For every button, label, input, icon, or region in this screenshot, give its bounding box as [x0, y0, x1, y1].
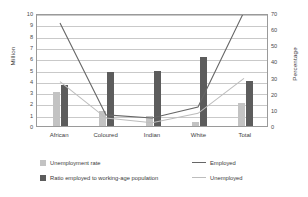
legend-item-employed: Employed	[192, 155, 243, 170]
y-tick-label-right: 20	[271, 92, 277, 98]
y-axis-ticks-right: 010203040506070	[271, 14, 289, 127]
legend-column-bars: Unemployment rate Ratio employed to work…	[40, 155, 158, 185]
y-tick-label-right: 70	[271, 11, 277, 17]
x-tick-label: Total	[238, 132, 251, 138]
y-axis-label-right: Percentage	[291, 47, 298, 81]
x-tick-label: Indian	[144, 132, 160, 138]
y-tick-label-left: 4	[30, 79, 33, 85]
y-tick-label-left: 3	[30, 90, 33, 96]
chart-container: Million Percentage 012345678910 01020304…	[0, 0, 308, 197]
gridline	[37, 60, 267, 61]
bar-unemployment-rate	[146, 116, 153, 126]
y-tick-label-left: 8	[30, 34, 33, 40]
y-tick-label-left: 6	[30, 56, 33, 62]
gridline	[37, 38, 267, 39]
y-tick-label-right: 0	[271, 124, 274, 130]
legend-item-unemployment-rate: Unemployment rate	[40, 155, 158, 170]
gridline	[37, 15, 267, 16]
legend-item-ratio-employed: Ratio employed to working-age population	[40, 170, 158, 185]
gridline	[37, 94, 267, 95]
y-tick-label-left: 1	[30, 113, 33, 119]
bar-unemployment-rate	[238, 103, 245, 126]
legend-item-unemployed: Unemployed	[192, 170, 243, 185]
y-tick-label-right: 40	[271, 59, 277, 65]
legend-label-unemployment-rate: Unemployment rate	[50, 160, 101, 166]
y-tick-label-right: 30	[271, 76, 277, 82]
y-tick-label-left: 5	[30, 68, 33, 74]
line-series-layer	[37, 15, 267, 126]
x-axis-ticks: AfricanColouredIndianWhiteTotal	[36, 131, 268, 143]
bar-unemployment-rate	[99, 111, 106, 126]
chart-legend: Unemployment rate Ratio employed to work…	[40, 155, 295, 189]
y-tick-label-right: 10	[271, 108, 277, 114]
bar-unemployment-rate	[192, 122, 199, 126]
x-tick-label: African	[50, 132, 69, 138]
bar-ratio-employed	[107, 72, 114, 126]
x-tick-label: Coloured	[93, 132, 117, 138]
y-tick-label-left: 7	[30, 45, 33, 51]
x-tick-label: White	[191, 132, 206, 138]
gridline	[37, 72, 267, 73]
gridline	[37, 105, 267, 106]
y-tick-label-right: 50	[271, 43, 277, 49]
legend-line-icon-employed	[192, 162, 206, 163]
line-employed	[60, 14, 244, 118]
bar-ratio-employed	[200, 57, 207, 126]
bar-ratio-employed	[154, 71, 161, 126]
legend-swatch-icon-unemployment-rate	[40, 160, 46, 166]
legend-swatch-icon-ratio-employed	[40, 175, 46, 181]
bar-ratio-employed	[61, 85, 68, 126]
legend-label-employed: Employed	[210, 160, 236, 166]
gridline	[37, 49, 267, 50]
y-axis-ticks-left: 012345678910	[14, 14, 33, 127]
legend-column-lines: Employed Unemployed	[192, 155, 243, 185]
y-tick-label-left: 0	[30, 124, 33, 130]
gridline	[37, 26, 267, 27]
plot-area	[36, 14, 268, 127]
legend-label-ratio-employed: Ratio employed to working-age population	[50, 175, 158, 181]
y-tick-label-left: 10	[27, 11, 33, 17]
bar-unemployment-rate	[53, 92, 60, 126]
y-tick-label-left: 9	[30, 22, 33, 28]
y-tick-label-right: 60	[271, 27, 277, 33]
gridline	[37, 83, 267, 84]
legend-line-icon-unemployed	[192, 177, 206, 178]
bar-ratio-employed	[246, 81, 253, 126]
legend-label-unemployed: Unemployed	[210, 175, 243, 181]
y-tick-label-left: 2	[30, 101, 33, 107]
